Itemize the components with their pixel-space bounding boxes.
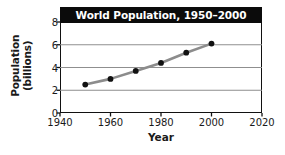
chart-figure: Population (billions) 02468 World Popula… bbox=[0, 0, 285, 155]
x-tick-label: 2020 bbox=[242, 117, 282, 128]
y-axis-title-line2: (billions) bbox=[22, 35, 34, 97]
chart-title: World Population, 1950–2000 bbox=[60, 7, 262, 23]
plot-area bbox=[60, 22, 262, 113]
y-tick-label: 8 bbox=[42, 17, 58, 28]
x-axis-title: Year bbox=[60, 131, 262, 143]
x-tick-label: 1980 bbox=[141, 117, 181, 128]
x-tick-label: 2000 bbox=[192, 117, 232, 128]
y-tick-label: 4 bbox=[42, 62, 58, 73]
y-tick-label: 2 bbox=[42, 85, 58, 96]
x-tick-marks bbox=[60, 113, 262, 117]
y-axis-title-line1: Population bbox=[9, 35, 21, 97]
y-axis-tick-labels: 02468 bbox=[40, 0, 58, 155]
y-axis-title: Population (billions) bbox=[2, 18, 42, 114]
x-tick-label: 1940 bbox=[40, 117, 80, 128]
y-tick-label: 6 bbox=[42, 39, 58, 50]
x-tick-label: 1960 bbox=[91, 117, 131, 128]
